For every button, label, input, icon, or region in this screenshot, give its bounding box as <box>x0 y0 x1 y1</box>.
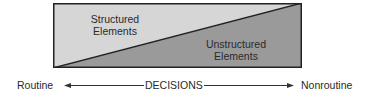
decisions-axis: Routine DECISIONS Nonroutine <box>0 78 366 94</box>
arrow-left-icon <box>64 83 71 88</box>
structured-label-line2: Elements <box>81 25 149 37</box>
unstructured-label-line1: Unstructured <box>196 38 276 50</box>
structured-label-line1: Structured <box>81 13 149 25</box>
nonroutine-label: Nonroutine <box>301 79 352 91</box>
routine-label: Routine <box>17 79 53 91</box>
decisions-label: DECISIONS <box>144 79 204 91</box>
unstructured-label-line2: Elements <box>196 50 276 62</box>
structured-elements-label: Structured Elements <box>81 13 149 37</box>
arrow-right-icon <box>287 83 294 88</box>
unstructured-elements-label: Unstructured Elements <box>196 38 276 62</box>
structure-diagram-box: Structured Elements Unstructured Element… <box>53 3 302 68</box>
